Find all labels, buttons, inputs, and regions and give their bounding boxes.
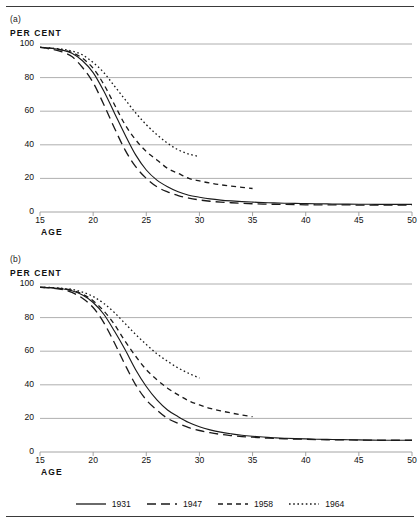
legend-swatch-1958 [218,500,248,508]
x-tick-label-15: 15 [28,455,52,465]
panel-a-plot-area [40,44,412,212]
x-tick-label-25: 25 [134,215,158,225]
y-tick-label-60: 60 [0,105,34,115]
y-tick-label-80: 80 [0,72,34,82]
x-tick-label-40: 40 [294,215,318,225]
y-tick-label-60: 60 [0,345,34,355]
chart-legend: 1931194719581964 [0,496,420,512]
legend-item-1931: 1931 [76,499,131,509]
panel-a-letter: (a) [10,14,21,24]
x-tick-label-20: 20 [81,215,105,225]
x-tick-label-25: 25 [134,455,158,465]
panel-a-y-axis-title: PER CENT [10,28,62,38]
y-tick-label-40: 40 [0,139,34,149]
x-tick-label-40: 40 [294,455,318,465]
x-tick-label-30: 30 [187,215,211,225]
chart-panel-a: (a) PER CENT AGE 02040608010015202530354… [0,14,420,250]
y-tick-label-100: 100 [0,38,34,48]
x-tick-label-45: 45 [347,215,371,225]
legend-item-1964: 1964 [289,499,344,509]
legend-swatch-1947 [147,500,177,508]
chart-panel-b: (b) PER CENT AGE 02040608010015202530354… [0,254,420,490]
y-tick-label-20: 20 [0,412,34,422]
bottom-divider-rule [6,516,414,517]
x-tick-label-50: 50 [400,215,420,225]
panel-b-y-axis-title: PER CENT [10,268,62,278]
x-tick-label-35: 35 [241,455,265,465]
panel-a-x-axis-title: AGE [41,227,63,237]
series-line-1958 [40,47,253,188]
x-tick-label-15: 15 [28,215,52,225]
legend-item-1947: 1947 [147,499,202,509]
legend-label-1947: 1947 [183,499,202,509]
legend-label-1964: 1964 [325,499,344,509]
legend-swatch-1964 [289,500,319,508]
x-tick-label-50: 50 [400,455,420,465]
panel-b-plot-area [40,284,412,452]
panel-a-svg [40,44,412,212]
y-tick-label-20: 20 [0,172,34,182]
panel-b-letter: (b) [10,254,21,264]
x-tick-label-35: 35 [241,215,265,225]
x-tick-label-30: 30 [187,455,211,465]
top-divider-rule [6,6,414,7]
legend-label-1931: 1931 [112,499,131,509]
series-line-1947 [40,287,412,440]
y-tick-label-40: 40 [0,379,34,389]
legend-swatch-1931 [76,500,106,508]
panel-b-svg [40,284,412,452]
panel-b-x-axis-title: AGE [41,467,63,477]
y-tick-label-80: 80 [0,312,34,322]
legend-item-1958: 1958 [218,499,273,509]
series-line-1958 [40,287,253,416]
legend-label-1958: 1958 [254,499,273,509]
y-tick-label-100: 100 [0,278,34,288]
x-tick-label-45: 45 [347,455,371,465]
series-line-1964 [40,287,199,378]
x-tick-label-20: 20 [81,455,105,465]
